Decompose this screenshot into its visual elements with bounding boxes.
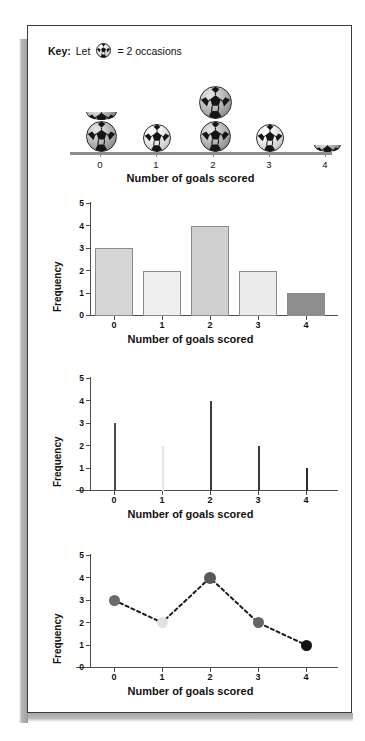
polygon-chart-xlabel-2: 2 xyxy=(201,672,219,682)
bar-chart-ylabel-1: 1 xyxy=(72,288,84,298)
half-ball-inner xyxy=(314,145,341,152)
bar-chart-x-title: Number of goals scored xyxy=(28,333,353,345)
bar-chart-xlabel-3: 3 xyxy=(249,320,267,330)
soccer-ball-icon xyxy=(256,124,284,152)
pictogram-xlabel-1: 1 xyxy=(146,159,166,170)
vline-0[interactable] xyxy=(114,423,116,491)
key-equals-text: = 2 occasions xyxy=(117,45,182,57)
data-point-2[interactable] xyxy=(204,572,216,584)
half-ball-clip xyxy=(314,145,341,152)
pictogram-xtick-4 xyxy=(325,152,326,157)
bar-chart-ytick-0 xyxy=(86,315,90,316)
vertical-line-chart: Frequency 5 4 3 2 1 0 0 1 2 3 4 Number o… xyxy=(28,361,353,531)
vline-chart-xlabel-2: 2 xyxy=(201,495,219,505)
bar-chart-ytick-3 xyxy=(86,248,90,249)
key-legend: Key: Let = 2 occasions xyxy=(48,43,182,58)
bar-chart-y-title: Frequency xyxy=(52,261,63,312)
vline-chart-y-axis xyxy=(90,377,91,491)
vline-chart-y-title: Frequency xyxy=(52,436,63,487)
vline-chart-ylabel-0: 0 xyxy=(72,485,84,495)
bar-chart-xlabel-1: 1 xyxy=(153,320,171,330)
bar-chart-ylabel-5: 5 xyxy=(72,198,84,208)
pictogram-xlabel-0: 0 xyxy=(90,159,110,170)
ball-pattern xyxy=(314,145,341,152)
vline-chart-ylabel-3: 3 xyxy=(72,418,84,428)
vline-chart-ytick-5 xyxy=(86,378,90,379)
bar-chart-ytick-2 xyxy=(86,270,90,271)
pictogram-xtick-2 xyxy=(213,152,214,157)
vline-chart-ylabel-5: 5 xyxy=(72,373,84,383)
half-ball-inner xyxy=(86,112,117,120)
pictogram-column-0 xyxy=(84,104,118,152)
half-ball-clip xyxy=(86,112,117,120)
bar-chart-ytick-5 xyxy=(86,203,90,204)
pictogram-axis-title: Number of goals scored xyxy=(28,172,353,184)
polygon-chart-xlabel-4: 4 xyxy=(297,672,315,682)
soccer-ball-icon xyxy=(86,121,117,152)
page-frame: Key: Let = 2 occasions xyxy=(27,25,352,713)
ball-pattern xyxy=(96,43,111,58)
vline-4[interactable] xyxy=(306,468,308,491)
ball-pattern xyxy=(86,121,117,152)
bar-chart-ylabel-0: 0 xyxy=(72,310,84,320)
polygon-chart-x-title: Number of goals scored xyxy=(28,685,353,697)
vline-chart-ylabel-2: 2 xyxy=(72,441,84,451)
bar-chart-xlabel-2: 2 xyxy=(201,320,219,330)
vline-2[interactable] xyxy=(210,401,212,491)
polygon-chart-xlabel-1: 1 xyxy=(153,672,171,682)
pictogram-xtick-0 xyxy=(100,152,101,157)
bar-3[interactable] xyxy=(239,271,277,316)
soccer-ball-icon xyxy=(96,43,111,58)
vline-chart-ylabel-4: 4 xyxy=(72,396,84,406)
vline-chart-ytick-0 xyxy=(86,490,90,491)
half-soccer-ball-icon xyxy=(86,104,117,120)
bar-chart-y-axis xyxy=(90,202,91,316)
pictogram-xlabel-4: 4 xyxy=(315,159,335,170)
bar-1[interactable] xyxy=(143,271,181,316)
half-soccer-ball-icon xyxy=(314,138,341,152)
vline-3[interactable] xyxy=(258,446,260,491)
polygon-chart-xlabel-3: 3 xyxy=(249,672,267,682)
soccer-ball-icon xyxy=(143,124,171,152)
ball-pattern xyxy=(200,121,231,152)
data-point-1[interactable] xyxy=(157,617,168,628)
bar-chart-ytick-1 xyxy=(86,293,90,294)
data-point-3[interactable] xyxy=(253,617,264,628)
key-let-word: Let xyxy=(76,45,91,57)
pictogram-xtick-1 xyxy=(156,152,157,157)
soccer-ball-icon xyxy=(200,121,231,152)
pictogram-column-3 xyxy=(253,124,287,152)
bar-2[interactable] xyxy=(191,226,229,316)
vline-1[interactable] xyxy=(162,446,164,491)
vline-chart-ytick-1 xyxy=(86,468,90,469)
key-label: Key: xyxy=(48,45,71,57)
data-point-0[interactable] xyxy=(109,595,120,606)
pictogram-column-2 xyxy=(196,86,234,152)
vline-chart-x-title: Number of goals scored xyxy=(28,508,353,520)
soccer-ball-icon xyxy=(199,86,232,119)
vline-chart-ytick-2 xyxy=(86,445,90,446)
polygon-dashed-line xyxy=(28,538,353,708)
bar-chart-xlabel-0: 0 xyxy=(105,320,123,330)
page-shadow-bottom xyxy=(28,713,353,722)
vline-chart-xlabel-3: 3 xyxy=(249,495,267,505)
data-point-4[interactable] xyxy=(301,640,312,651)
vline-chart-xlabel-0: 0 xyxy=(105,495,123,505)
bar-0[interactable] xyxy=(95,248,133,316)
ball-pattern xyxy=(199,86,232,119)
vline-chart-ytick-3 xyxy=(86,423,90,424)
vline-chart-ylabel-1: 1 xyxy=(72,463,84,473)
bar-chart-ylabel-2: 2 xyxy=(72,266,84,276)
vline-chart-xlabel-1: 1 xyxy=(153,495,171,505)
vline-chart-ytick-4 xyxy=(86,400,90,401)
pictogram-column-4 xyxy=(310,138,344,152)
pictogram-chart: 0 1 2 3 4 Number of goals scored xyxy=(28,74,353,182)
bar-4[interactable] xyxy=(287,293,325,316)
bar-chart-ytick-4 xyxy=(86,225,90,226)
pictogram-xlabel-3: 3 xyxy=(259,159,279,170)
pictogram-column-1 xyxy=(140,124,174,152)
ball-pattern xyxy=(86,112,117,120)
polygon-chart-xlabel-0: 0 xyxy=(105,672,123,682)
bar-chart: Frequency 5 4 3 2 1 0 0 1 2 3 4 Number o… xyxy=(28,186,353,351)
ball-pattern xyxy=(143,124,171,152)
